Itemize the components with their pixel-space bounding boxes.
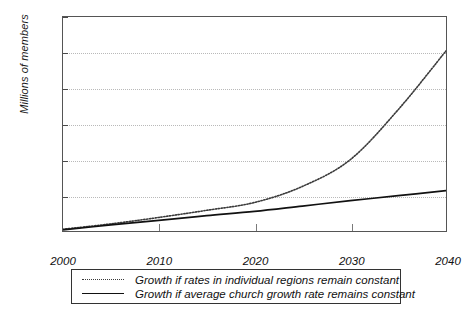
x-tick-mark-2020 bbox=[256, 224, 257, 231]
legend-item-dotted: Growth if rates in individual regions re… bbox=[80, 272, 394, 287]
series-lines bbox=[63, 17, 446, 231]
x-tick-mark-2010 bbox=[159, 224, 160, 231]
x-tick-label-2040: 2040 bbox=[416, 255, 466, 267]
legend-label-solid: Growth if average church growth rate rem… bbox=[135, 288, 415, 300]
plot-area: 0100200300400500600 20002010202020302040 bbox=[62, 16, 447, 232]
y-axis-title: Millions of members bbox=[18, 0, 30, 144]
y-tick-mark-100 bbox=[63, 197, 68, 198]
x-tick-label-2020: 2020 bbox=[224, 255, 288, 267]
y-tick-mark-600 bbox=[63, 17, 68, 18]
dotted-line-sample-icon bbox=[80, 275, 126, 285]
y-tick-mark-500 bbox=[63, 53, 68, 54]
y-tick-mark-200 bbox=[63, 161, 68, 162]
legend-item-solid: Growth if average church growth rate rem… bbox=[80, 286, 394, 301]
legend-label-dotted: Growth if rates in individual regions re… bbox=[135, 274, 399, 286]
x-tick-label-2000: 2000 bbox=[31, 255, 95, 267]
x-tick-label-2010: 2010 bbox=[127, 255, 191, 267]
solid-line-sample-icon bbox=[80, 289, 126, 299]
y-tick-mark-300 bbox=[63, 125, 68, 126]
series-line-solid bbox=[63, 191, 446, 230]
legend: Growth if rates in individual regions re… bbox=[71, 269, 401, 304]
x-tick-label-2030: 2030 bbox=[320, 255, 384, 267]
y-tick-mark-400 bbox=[63, 89, 68, 90]
plot-inner bbox=[63, 17, 446, 231]
series-line-dotted bbox=[63, 51, 446, 229]
x-tick-mark-2030 bbox=[352, 224, 353, 231]
